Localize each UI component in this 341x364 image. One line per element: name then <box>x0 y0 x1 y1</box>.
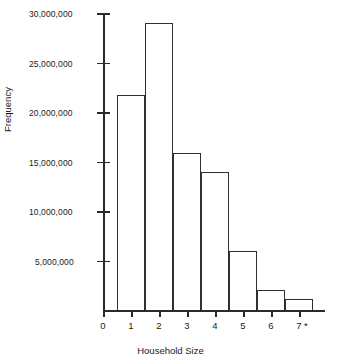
x-tick-label-3: 3 <box>177 320 197 331</box>
y-tick-mark-5000000 <box>97 261 110 263</box>
y-tick-label-5000000: 5,000,000 <box>35 257 74 267</box>
x-tick-mark-7 <box>299 311 301 317</box>
y-tick-mark-25000000 <box>97 63 110 65</box>
y-tick-label-20000000: 20,000,000 <box>29 108 73 118</box>
bar-household-size-2 <box>145 23 173 311</box>
histogram-figure: Frequency 30,000,000 25,000,000 20,000,0… <box>0 0 341 364</box>
y-tick-mark-15000000 <box>97 162 110 164</box>
x-tick-mark-6 <box>271 311 273 317</box>
bar-household-size-3 <box>173 153 201 311</box>
x-tick-label-5: 5 <box>233 320 253 331</box>
y-tick-mark-30000000 <box>97 13 110 15</box>
y-tick-mark-20000000 <box>97 112 110 114</box>
y-tick-label-15000000: 15,000,000 <box>29 158 73 168</box>
x-tick-mark-5 <box>243 311 245 317</box>
x-tick-label-2: 2 <box>149 320 169 331</box>
x-tick-label-4: 4 <box>205 320 225 331</box>
bar-household-size-5 <box>229 251 257 311</box>
y-axis-title: Frequency <box>2 52 13 132</box>
y-tick-mark-10000000 <box>97 211 110 213</box>
x-tick-label-6: 6 <box>261 320 281 331</box>
y-tick-label-25000000: 25,000,000 <box>29 59 73 69</box>
x-axis-title: Household Size <box>0 345 341 356</box>
x-tick-mark-3 <box>187 311 189 317</box>
x-tick-mark-2 <box>159 311 161 317</box>
bar-household-size-1 <box>117 95 145 311</box>
y-tick-label-30000000: 30,000,000 <box>29 9 73 19</box>
x-tick-label-0: 0 <box>93 320 113 331</box>
bar-household-size-6 <box>257 290 285 311</box>
x-tick-mark-1 <box>131 311 133 317</box>
x-tick-label-7: 7 * <box>289 320 315 331</box>
x-tick-mark-0 <box>103 311 105 317</box>
x-tick-mark-4 <box>215 311 217 317</box>
bar-household-size-4 <box>201 172 229 311</box>
y-tick-label-10000000: 10,000,000 <box>29 207 73 217</box>
x-axis-line <box>103 310 325 312</box>
plot-area: Frequency 30,000,000 25,000,000 20,000,0… <box>0 0 341 364</box>
x-tick-label-1: 1 <box>121 320 141 331</box>
